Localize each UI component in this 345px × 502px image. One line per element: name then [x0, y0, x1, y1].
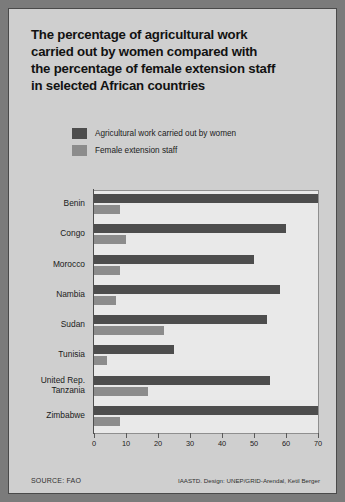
page-title: The percentage of agricultural work carr… [31, 26, 321, 94]
category-label: Benin [64, 198, 85, 208]
plot-area [94, 190, 319, 434]
x-axis-tick [254, 433, 255, 438]
bar-extension-staff [94, 266, 120, 275]
bar-extension-staff [94, 235, 126, 244]
category-label-line: Congo [60, 228, 85, 238]
x-axis-tick [158, 433, 159, 438]
bar-agricultural-work [94, 255, 254, 264]
x-axis: 010203040506070 [94, 433, 318, 451]
category-label-line: Tunisia [58, 349, 85, 359]
source-note: SOURCE: FAO [31, 477, 81, 484]
bar-agricultural-work [94, 194, 318, 203]
category-label: Morocco [53, 259, 85, 269]
poster-panel: The percentage of agricultural work carr… [8, 8, 337, 494]
title-line-3: the percentage of female extension staff [31, 60, 321, 77]
category-label-line: Sudan [61, 319, 85, 329]
x-axis-tick-label: 50 [250, 439, 258, 448]
category-label-line: Morocco [53, 259, 85, 269]
legend-swatch-icon [72, 128, 87, 139]
category-label: Congo [60, 228, 85, 238]
bar-agricultural-work [94, 376, 270, 385]
x-axis-tick [94, 433, 95, 438]
category-label-line: Benin [64, 198, 85, 208]
bar-agricultural-work [94, 315, 267, 324]
chart-legend: Agricultural work carried out by womenFe… [72, 127, 322, 161]
category-label: Zimbabwe [46, 410, 85, 420]
x-axis-tick [126, 433, 127, 438]
bar-series-container [94, 191, 318, 433]
x-axis-tick-label: 20 [154, 439, 162, 448]
bar-agricultural-work [94, 285, 280, 294]
bar-extension-staff [94, 296, 116, 305]
category-label: Tunisia [58, 349, 85, 359]
legend-item: Female extension staff [72, 144, 322, 157]
category-label: Nambia [56, 289, 85, 299]
legend-item: Agricultural work carried out by women [72, 127, 322, 140]
x-axis-tick [222, 433, 223, 438]
bar-extension-staff [94, 356, 107, 365]
bar-extension-staff [94, 417, 120, 426]
category-axis-labels: BeninCongoMoroccoNambiaSudanTunisiaUnite… [9, 190, 91, 432]
bar-agricultural-work [94, 224, 286, 233]
x-axis-tick-label: 70 [314, 439, 322, 448]
bar-agricultural-work [94, 406, 318, 415]
category-label-line: Nambia [56, 289, 85, 299]
bar-extension-staff [94, 326, 164, 335]
x-axis-tick-label: 10 [122, 439, 130, 448]
category-label-line: United Rep. [41, 375, 85, 385]
category-label-line: Tanzania [41, 385, 85, 395]
legend-label: Agricultural work carried out by women [95, 129, 236, 138]
x-axis-tick-label: 60 [282, 439, 290, 448]
legend-label: Female extension staff [95, 146, 177, 155]
category-label: Sudan [61, 319, 85, 329]
bar-agricultural-work [94, 345, 174, 354]
bar-extension-staff [94, 205, 120, 214]
x-axis-tick-label: 40 [218, 439, 226, 448]
x-axis-tick-label: 30 [186, 439, 194, 448]
credit-note: IAASTD. Design: UNEP/GRID-Arendal, Ketil… [178, 477, 320, 484]
title-line-2: carried out by women compared with [31, 43, 321, 60]
category-label: United Rep.Tanzania [41, 375, 85, 395]
x-axis-tick [318, 433, 319, 438]
x-axis-tick [286, 433, 287, 438]
x-axis-tick [190, 433, 191, 438]
bar-extension-staff [94, 387, 148, 396]
category-label-line: Zimbabwe [46, 410, 85, 420]
x-axis-tick-label: 0 [92, 439, 96, 448]
title-line-4: in selected African countries [31, 77, 321, 94]
legend-swatch-icon [72, 145, 87, 156]
title-line-1: The percentage of agricultural work [31, 26, 321, 43]
